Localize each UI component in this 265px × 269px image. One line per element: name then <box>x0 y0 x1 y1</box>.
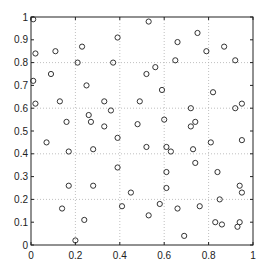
data-point <box>102 99 107 104</box>
y-tick-label: 0.8 <box>14 57 28 68</box>
data-point <box>144 71 149 76</box>
data-point <box>128 190 133 195</box>
y-tick-label: 0.4 <box>14 148 28 159</box>
plot-area-frame <box>31 17 253 245</box>
y-tick-label: 0.5 <box>14 126 28 137</box>
data-point <box>197 204 202 209</box>
data-point <box>219 222 224 227</box>
data-point <box>115 35 120 40</box>
data-point <box>91 147 96 152</box>
data-point <box>168 149 173 154</box>
data-point <box>59 206 64 211</box>
grid-lines <box>31 17 253 245</box>
y-tick-label: 0.2 <box>14 194 28 205</box>
data-point <box>153 65 158 70</box>
data-point <box>175 206 180 211</box>
data-point <box>82 217 87 222</box>
data-point <box>193 160 198 165</box>
scatter-chart: 00.20.40.60.81 00.10.20.30.40.50.60.70.8… <box>0 0 265 269</box>
data-point <box>164 169 169 174</box>
data-point <box>222 44 227 49</box>
data-point <box>48 71 53 76</box>
x-tick-label: 0.6 <box>157 250 171 261</box>
x-tick-label: 0 <box>28 250 34 261</box>
data-point <box>53 49 58 54</box>
data-point <box>91 183 96 188</box>
data-point <box>108 108 113 113</box>
data-point <box>44 140 49 145</box>
data-point <box>102 124 107 129</box>
data-point <box>208 140 213 145</box>
x-tick-label: 0.4 <box>113 250 127 261</box>
data-point <box>144 144 149 149</box>
data-point <box>33 101 38 106</box>
data-point <box>157 201 162 206</box>
data-point <box>66 183 71 188</box>
data-points <box>31 17 245 243</box>
data-point <box>79 44 84 49</box>
y-tick-label: 0.7 <box>14 80 28 91</box>
data-point <box>215 169 220 174</box>
data-point <box>193 119 198 124</box>
data-point <box>188 124 193 129</box>
data-point <box>64 119 69 124</box>
data-point <box>146 213 151 218</box>
data-point <box>111 60 116 65</box>
data-point <box>86 112 91 117</box>
data-point <box>190 147 195 152</box>
data-point <box>175 39 180 44</box>
y-tick-label: 0.9 <box>14 34 28 45</box>
data-point <box>88 119 93 124</box>
x-tick-label: 0.8 <box>202 250 216 261</box>
data-point <box>210 90 215 95</box>
axis-ticks <box>31 17 253 245</box>
data-point <box>237 183 242 188</box>
data-point <box>239 190 244 195</box>
data-point <box>84 83 89 88</box>
data-point <box>239 101 244 106</box>
data-point <box>237 220 242 225</box>
y-axis-tick-labels: 00.10.20.30.40.50.60.70.80.91 <box>14 12 28 251</box>
data-point <box>204 49 209 54</box>
y-tick-label: 0.6 <box>14 103 28 114</box>
data-point <box>135 122 140 127</box>
data-point <box>33 51 38 56</box>
data-point <box>233 58 238 63</box>
data-point <box>213 220 218 225</box>
data-point <box>57 99 62 104</box>
data-point <box>159 87 164 92</box>
data-point <box>195 30 200 35</box>
y-tick-label: 1 <box>22 12 28 23</box>
y-tick-label: 0 <box>22 240 28 251</box>
data-point <box>173 58 178 63</box>
data-point <box>146 19 151 24</box>
y-tick-label: 0.3 <box>14 171 28 182</box>
data-point <box>66 149 71 154</box>
x-axis-tick-labels: 00.20.40.60.81 <box>28 250 256 261</box>
x-tick-label: 1 <box>250 250 256 261</box>
data-point <box>239 138 244 143</box>
x-tick-label: 0.2 <box>68 250 82 261</box>
y-tick-label: 0.1 <box>14 217 28 228</box>
data-point <box>137 99 142 104</box>
data-point <box>182 233 187 238</box>
